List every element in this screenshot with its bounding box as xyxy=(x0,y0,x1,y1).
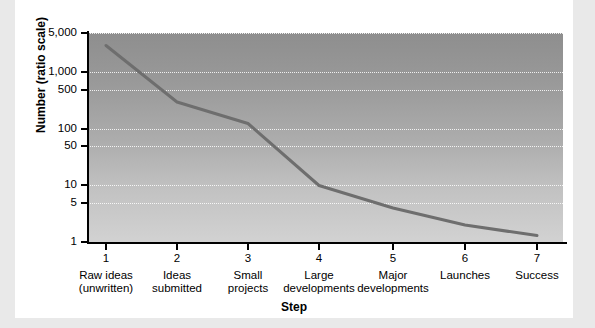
x-category-line-2: developments xyxy=(348,282,438,295)
series-polyline xyxy=(106,46,537,236)
y-tick-mark xyxy=(81,128,88,130)
y-tick-label: 50 xyxy=(17,140,77,152)
y-tick-mark xyxy=(81,145,88,147)
x-tick-mark xyxy=(176,244,178,250)
y-tick-label: 5 xyxy=(17,197,77,209)
x-tick-category-label: Success xyxy=(492,269,582,282)
y-tick-mark xyxy=(81,241,88,243)
y-tick-label: 1 xyxy=(17,236,77,248)
x-tick-mark xyxy=(247,244,249,250)
x-tick-mark xyxy=(318,244,320,250)
x-axis-title: Step xyxy=(15,300,573,314)
y-tick-label: 10 xyxy=(17,179,77,191)
x-category-line-1: Success xyxy=(492,269,582,282)
plot-area xyxy=(88,33,563,242)
chart-figure: Number (ratio scale) 5,0001,000500100501… xyxy=(15,8,573,318)
y-tick-mark xyxy=(81,184,88,186)
series-line-chart xyxy=(88,33,563,242)
y-tick-mark xyxy=(81,202,88,204)
y-tick-mark xyxy=(81,89,88,91)
figure-page: Number (ratio scale) 5,0001,000500100501… xyxy=(0,0,595,328)
y-tick-mark xyxy=(81,32,88,34)
y-tick-label: 5,000 xyxy=(17,27,77,39)
x-axis-line xyxy=(87,242,567,244)
y-axis-line xyxy=(87,31,89,244)
y-tick-mark xyxy=(81,71,88,73)
x-tick-number: 6 xyxy=(430,253,500,265)
x-tick-number: 4 xyxy=(284,253,354,265)
x-tick-mark xyxy=(536,244,538,250)
y-tick-label: 500 xyxy=(17,84,77,96)
x-tick-number: 7 xyxy=(502,253,572,265)
page-margin-left xyxy=(0,0,15,328)
x-tick-mark xyxy=(392,244,394,250)
x-tick-number: 5 xyxy=(358,253,428,265)
x-tick-number: 3 xyxy=(213,253,283,265)
x-tick-mark xyxy=(105,244,107,250)
y-tick-label: 1,000 xyxy=(17,66,77,78)
x-tick-number: 1 xyxy=(71,253,141,265)
y-tick-label: 100 xyxy=(17,123,77,135)
x-tick-mark xyxy=(464,244,466,250)
x-tick-number: 2 xyxy=(142,253,212,265)
